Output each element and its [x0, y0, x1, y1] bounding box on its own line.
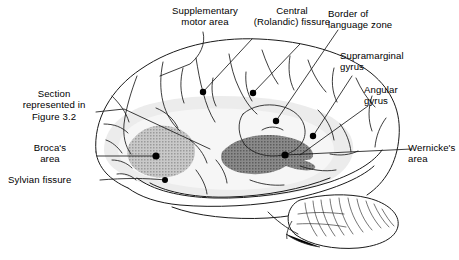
leader-supplementary-motor-area: [160, 32, 204, 76]
brain-lateral-diagram: [0, 0, 459, 260]
border-of-language-zone-marker: [273, 118, 279, 124]
sylvian-fissure-marker: [162, 177, 168, 183]
label-sylvian-fissure: Sylvian fissure: [8, 174, 108, 185]
label-wernickes-area: Wernicke's area: [408, 142, 459, 165]
leader-supplementary-motor-area-2: [203, 39, 252, 92]
label-supramarginal-gyrus: Supramarginal gyrus: [340, 50, 458, 73]
wernickes-area-marker: [281, 151, 288, 158]
central-rolandic-fissure-marker: [250, 90, 256, 96]
label-brocas-area: Broca's area: [14, 142, 86, 165]
brocas-area-marker: [152, 152, 159, 159]
supplementary-motor-area-marker: [200, 89, 206, 95]
cerebellum: [286, 195, 398, 249]
label-angular-gyrus: Angular gyrus: [364, 84, 458, 107]
label-border-of-language-zone: Border of language zone: [328, 8, 452, 31]
supramarginal-gyrus-marker: [310, 133, 316, 139]
leader-central-rolandic-fissure: [253, 44, 300, 93]
label-section-represented-in-figure-3-2: Section represented in Figure 3.2: [6, 88, 102, 122]
